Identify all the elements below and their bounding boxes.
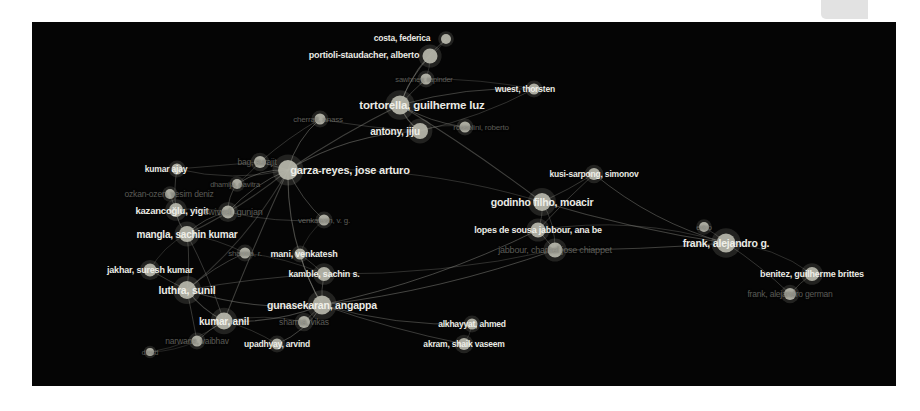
node-label[interactable]: upadhyay, arvind bbox=[244, 339, 310, 349]
node-label[interactable]: tortorella, guilherme luz bbox=[359, 99, 484, 111]
node-label[interactable]: garza-reyes, jose arturo bbox=[290, 164, 409, 176]
node-label[interactable]: erico bbox=[696, 223, 711, 232]
node-label[interactable]: venkatesh, v. g. bbox=[298, 216, 350, 225]
edge bbox=[322, 230, 538, 305]
node-label[interactable]: gunasekaran, angappa bbox=[267, 299, 377, 311]
nodes-group: costa, federicaportioli-staudacher, albe… bbox=[140, 31, 823, 358]
node-label[interactable]: antony, jiju bbox=[370, 126, 420, 137]
node-label[interactable]: sharma, r. bbox=[228, 249, 262, 258]
graph-node[interactable]: portioli-staudacher, alberto bbox=[423, 49, 438, 64]
node-label[interactable]: mangla, sachin kumar bbox=[136, 229, 237, 240]
node-label[interactable]: bag, surajit bbox=[237, 157, 276, 167]
node-label[interactable]: ozkan-ozen, yesim deniz bbox=[125, 189, 214, 199]
node-label[interactable]: narwane, vaibhav bbox=[165, 336, 228, 346]
network-visualization-canvas[interactable]: costa, federicaportioli-staudacher, albe… bbox=[32, 22, 896, 386]
node-label[interactable]: dwivedi, gunjan bbox=[203, 207, 262, 217]
node-label[interactable]: cherrafi, anass bbox=[293, 115, 342, 124]
node-label[interactable]: kamble, sachin s. bbox=[288, 269, 359, 279]
node-label[interactable]: kumar ajay bbox=[145, 164, 187, 174]
node-label[interactable]: costa, federica bbox=[374, 33, 431, 43]
node-label[interactable]: lopes de sousa jabbour, ana be bbox=[474, 225, 602, 235]
node-label[interactable]: sharma, vikas bbox=[279, 317, 329, 327]
node-label[interactable]: alkhayyat, ahmed bbox=[438, 319, 506, 329]
screenshot-root: costa, federicaportioli-staudacher, albe… bbox=[0, 0, 920, 411]
graph-node[interactable]: costa, federica bbox=[441, 34, 451, 44]
node-label[interactable]: benitez, guilherme brittes bbox=[760, 269, 864, 279]
edges-group bbox=[150, 39, 812, 352]
node-label[interactable]: mani, venkatesh bbox=[270, 249, 337, 259]
node-label[interactable]: akram, shaik vaseem bbox=[423, 339, 504, 349]
node-label[interactable]: godinho filho, moacir bbox=[491, 196, 594, 208]
canvas-corner-notch[interactable] bbox=[821, 0, 868, 19]
node-label[interactable]: wuest, thorsten bbox=[495, 84, 555, 94]
node-label[interactable]: rossolini, roberto bbox=[453, 123, 509, 132]
edge bbox=[177, 169, 288, 176]
node-label[interactable]: luthra, sunil bbox=[159, 284, 216, 296]
node-label[interactable]: dmsd bbox=[142, 349, 158, 356]
node-label[interactable]: sawhney, rapinder bbox=[395, 75, 452, 84]
node-label[interactable]: kazancoğlu, yigit bbox=[135, 205, 208, 216]
node-label[interactable]: dhamija, pavitra bbox=[210, 180, 260, 189]
node-label[interactable]: kumar, anil bbox=[199, 316, 249, 327]
node-label[interactable]: portioli-staudacher, alberto bbox=[309, 50, 419, 60]
node-label[interactable]: jabbour, charbel jose chiappet bbox=[498, 245, 612, 255]
node-label[interactable]: kusi-sarpong, simonov bbox=[550, 169, 639, 179]
node-label[interactable]: jakhar, suresh kumar bbox=[107, 265, 193, 275]
node-label[interactable]: frank, alejandro g. bbox=[683, 237, 770, 249]
edge bbox=[288, 170, 322, 305]
node-label[interactable]: frank, alejandro german bbox=[747, 289, 832, 299]
